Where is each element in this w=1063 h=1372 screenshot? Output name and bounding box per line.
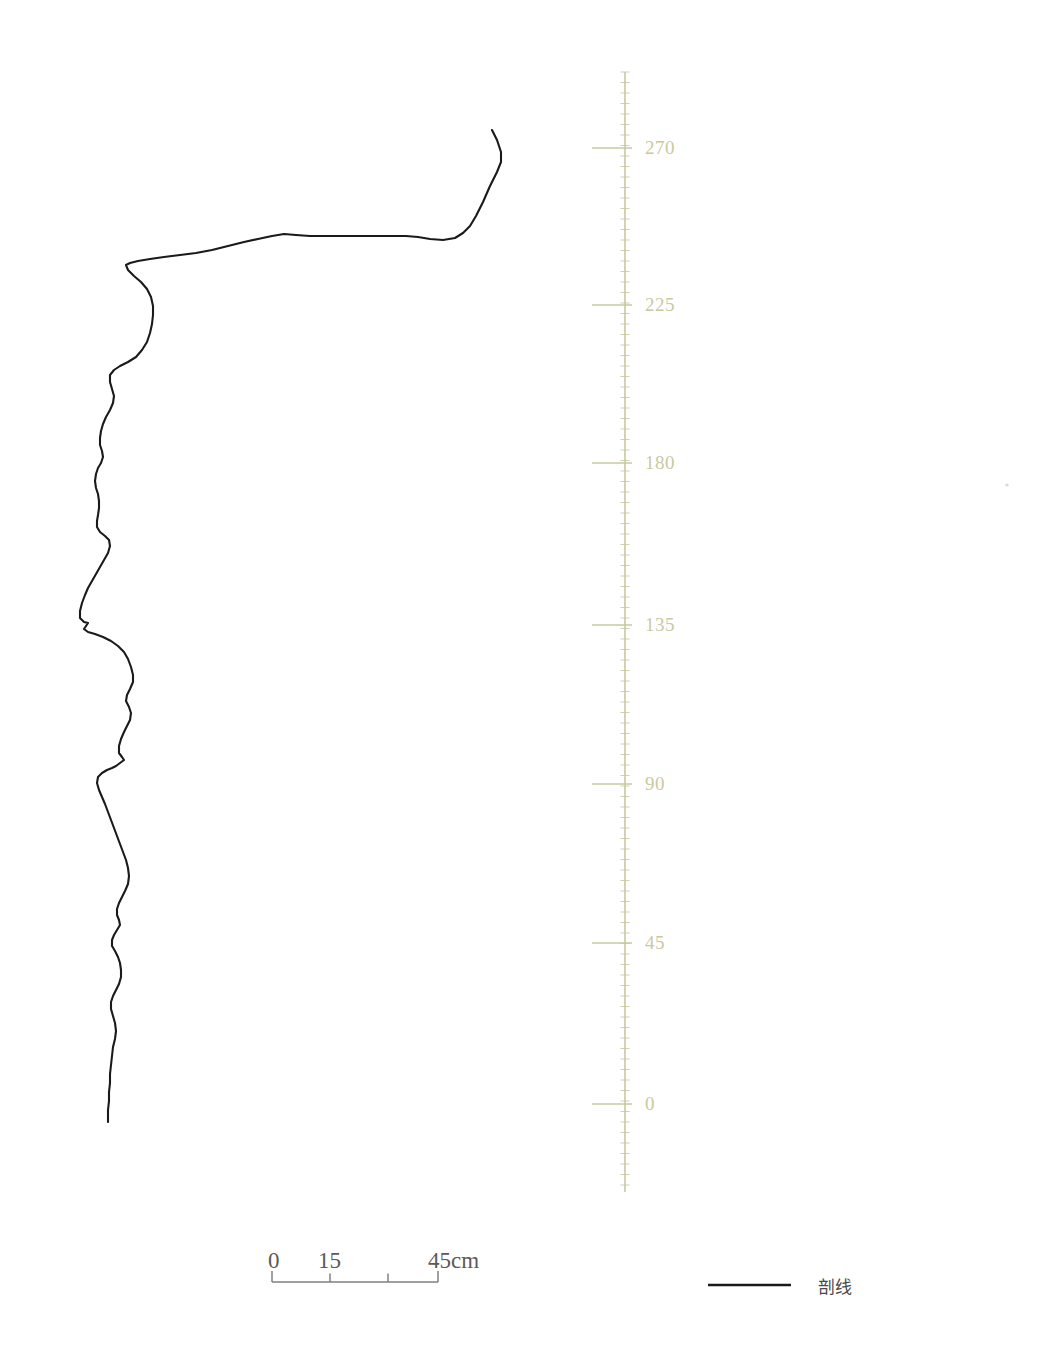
axis-tick-label: 90 bbox=[645, 773, 665, 795]
profile-line bbox=[80, 130, 501, 1122]
legend-item-label: 剖线 bbox=[818, 1273, 852, 1298]
scale-bar-label: 0 bbox=[268, 1248, 280, 1274]
axis-tick-label: 0 bbox=[645, 1093, 655, 1115]
depth-scale-axis bbox=[592, 72, 632, 1192]
figure-canvas: 27022518013590450 01545cm 剖线 bbox=[0, 0, 1063, 1372]
scale-bar-label: 45cm bbox=[428, 1248, 479, 1274]
axis-tick-label: 225 bbox=[645, 294, 675, 316]
axis-tick-label: 180 bbox=[645, 452, 675, 474]
scale-bar-label: 15 bbox=[318, 1248, 341, 1274]
axis-tick-label: 270 bbox=[645, 137, 675, 159]
figure-svg bbox=[0, 0, 1063, 1372]
axis-tick-label: 45 bbox=[645, 932, 665, 954]
faint-marks-group bbox=[1005, 483, 1008, 486]
scale-bar-group bbox=[272, 1271, 438, 1282]
profile-line-group bbox=[80, 130, 501, 1122]
faint-mark-icon bbox=[1005, 483, 1008, 486]
axis-tick-label: 135 bbox=[645, 614, 675, 636]
